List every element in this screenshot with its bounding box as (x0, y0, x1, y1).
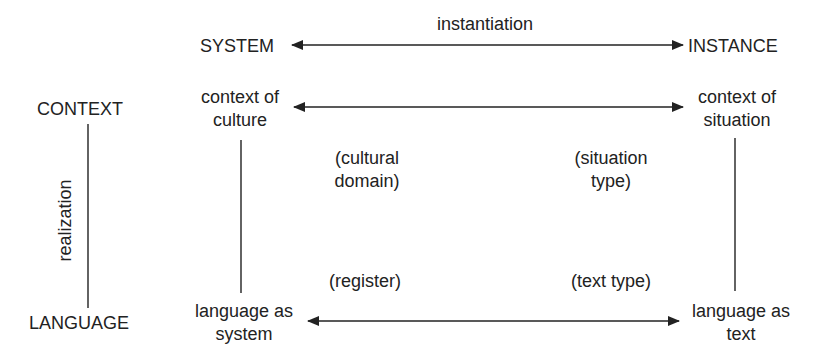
situation-type-line2: type) (551, 170, 671, 193)
situation-type-label: (situation type) (551, 147, 671, 193)
cultural-domain-line1: (cultural (307, 147, 427, 170)
language-as-text-node: language as text (676, 300, 806, 346)
cultural-domain-line2: domain) (307, 170, 427, 193)
language-as-system-node: language as system (179, 300, 309, 346)
language-as-system-line2: system (179, 323, 309, 346)
language-as-system-line1: language as (179, 300, 309, 323)
language-as-text-line1: language as (676, 300, 806, 323)
language-as-text-line2: text (676, 323, 806, 346)
context-of-culture-line1: context of (180, 86, 300, 109)
context-of-culture-line2: culture (180, 109, 300, 132)
context-of-situation-line1: context of (677, 86, 797, 109)
context-of-situation-node: context of situation (677, 86, 797, 132)
situation-type-line1: (situation (551, 147, 671, 170)
realization-label: realization (55, 171, 76, 271)
context-of-culture-node: context of culture (180, 86, 300, 132)
context-of-situation-line2: situation (677, 109, 797, 132)
instantiation-label: instantiation (410, 13, 560, 35)
context-pole-label: CONTEXT (37, 98, 123, 120)
cultural-domain-label: (cultural domain) (307, 147, 427, 193)
instance-pole-label: INSTANCE (688, 35, 778, 57)
language-pole-label: LANGUAGE (29, 312, 129, 334)
register-label: (register) (305, 270, 425, 292)
system-pole-label: SYSTEM (200, 35, 274, 57)
text-type-label: (text type) (551, 270, 671, 292)
